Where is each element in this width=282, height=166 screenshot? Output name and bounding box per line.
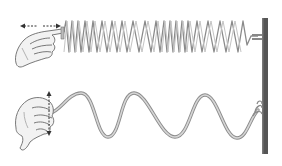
spring: [63, 21, 258, 52]
wave-diagram: Longitudinal and transverse waves Longit…: [0, 0, 282, 166]
horizontal-motion-arrow-icon: [20, 24, 61, 29]
hand-icon: [15, 27, 64, 67]
spring-wall-hook: [252, 34, 262, 40]
hand-icon: [16, 98, 54, 150]
wall: [262, 18, 268, 154]
rope: [50, 93, 258, 138]
